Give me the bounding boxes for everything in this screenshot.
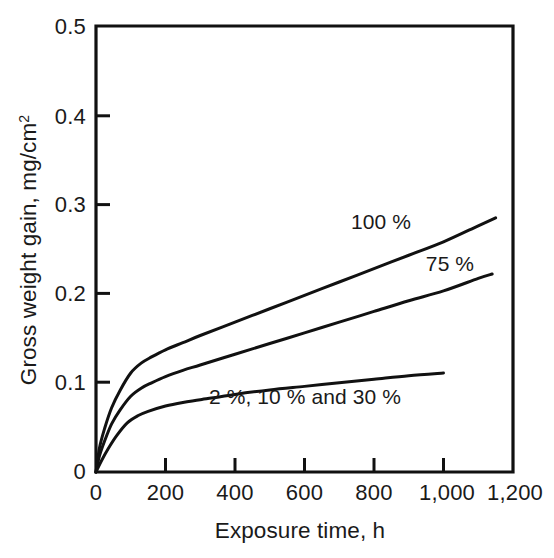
x-tick-label-400: 400 [216,480,253,505]
series-label-100-percent: 100 % [351,210,411,233]
y-axis-ticks [96,116,110,382]
series-label-75-percent: 75 % [426,252,474,275]
y-axis-title-text: Gross weight gain, mg/cm [16,123,41,386]
y-tick-label-0: 0 [74,459,86,484]
line-chart: 0.5 0.4 0.3 0.2 0.1 0 0 200 400 600 800 … [0,0,554,558]
x-tick-label-800: 800 [355,480,392,505]
y-axis-title-superscript: 2 [16,115,32,123]
y-tick-label-0.4: 0.4 [55,104,86,129]
x-tick-labels: 0 200 400 600 800 1,000 1,200 [90,480,543,505]
y-tick-label-0.1: 0.1 [55,370,86,395]
x-tick-label-1200: 1,200 [487,480,543,505]
chart-figure: 0.5 0.4 0.3 0.2 0.1 0 0 200 400 600 800 … [0,0,554,558]
x-tick-label-600: 600 [286,480,323,505]
x-axis-title: Exposure time, h [215,518,385,543]
x-tick-label-200: 200 [147,480,184,505]
y-tick-label-0.2: 0.2 [55,281,86,306]
y-tick-label-0.3: 0.3 [55,192,86,217]
y-tick-labels: 0.5 0.4 0.3 0.2 0.1 0 [55,14,86,484]
series-annotations: 100 % 75 % 2 %, 10 % and 30 % [209,210,474,408]
series-label-low-percent: 2 %, 10 % and 30 % [209,385,401,408]
y-tick-label-0.5: 0.5 [55,14,86,39]
x-tick-label-1000: 1,000 [419,480,475,505]
y-axis-title: Gross weight gain, mg/cm2 [16,115,41,386]
x-tick-label-0: 0 [90,480,102,505]
x-axis-ticks [166,458,444,472]
